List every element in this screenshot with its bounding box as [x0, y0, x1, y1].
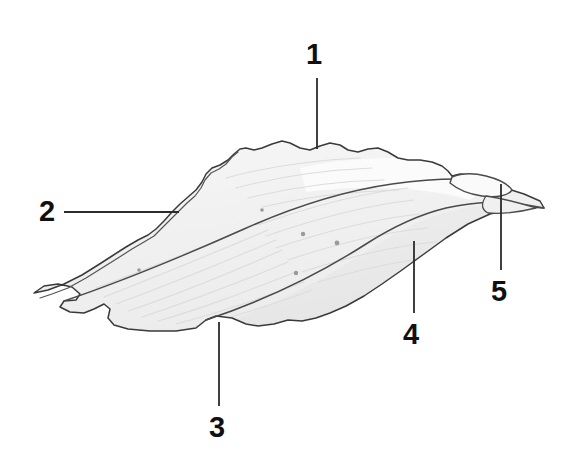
label-1[interactable]: 1 [306, 40, 322, 69]
surface-speck [260, 208, 264, 212]
surface-speck [137, 268, 141, 272]
anatomical-drawing-svg [0, 0, 576, 466]
figure-canvas: 1 2 3 4 5 [0, 0, 576, 466]
label-5[interactable]: 5 [491, 277, 507, 306]
surface-speck [294, 271, 298, 275]
surface-speck [301, 232, 305, 236]
label-3[interactable]: 3 [209, 413, 225, 442]
surface-speck [335, 241, 340, 246]
label-4[interactable]: 4 [403, 320, 419, 349]
label-2[interactable]: 2 [39, 197, 55, 226]
